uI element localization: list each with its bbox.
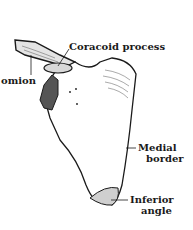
label-inferior-angle-line2: angle — [141, 205, 172, 216]
label-inferior-angle-line1: Inferior — [130, 194, 174, 205]
scapula-diagram: Coracoid process omion Medial border Inf… — [0, 0, 193, 230]
scapula-blade — [45, 58, 136, 205]
label-coracoid-process: Coracoid process — [69, 41, 165, 52]
label-medial-border-line1: Medial — [138, 142, 177, 153]
label-medial-border-line2: border — [146, 153, 184, 164]
label-acromion: omion — [1, 75, 37, 86]
coracoid-shape — [44, 63, 72, 73]
